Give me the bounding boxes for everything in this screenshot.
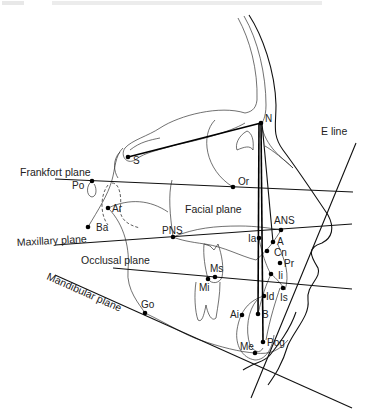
point-ii xyxy=(269,272,274,277)
palate-outline xyxy=(173,226,281,260)
point-mi xyxy=(206,277,211,282)
orbit-outline xyxy=(236,131,253,150)
label-cn: Cn xyxy=(274,247,287,258)
point-ans xyxy=(279,228,284,233)
nasal-bone-outline xyxy=(262,128,293,168)
label-frankfort-plane: Frankfort plane xyxy=(20,166,91,178)
n-b-line xyxy=(258,123,259,314)
e-line xyxy=(251,143,356,398)
point-ia xyxy=(257,236,262,241)
label-pns: PNS xyxy=(162,225,183,236)
label-pr: Pr xyxy=(284,258,295,269)
point-go xyxy=(143,311,148,316)
label-a: A xyxy=(277,236,284,247)
label-or: Or xyxy=(238,176,250,187)
point-is xyxy=(281,286,286,291)
label-is: Is xyxy=(280,292,288,303)
label-mandibular-plane: Mandibular plane xyxy=(45,270,124,314)
label-pog: Pog xyxy=(267,337,285,348)
label-occlusal-plane: Occlusal plane xyxy=(81,254,150,266)
point-b xyxy=(256,312,261,317)
point-pog xyxy=(261,340,266,345)
label-me: Me xyxy=(240,341,254,352)
label-ba: Ba xyxy=(96,222,109,233)
label-maxillary-plane: Maxillary plane xyxy=(16,232,87,248)
label-b: B xyxy=(262,309,269,320)
point-ai xyxy=(240,313,245,318)
cephalometric-diagram: N S Po Or Ar Ba PNS ANS Ia A Cn Pr Ii Is… xyxy=(0,0,372,420)
label-ms: Ms xyxy=(210,263,223,274)
label-e-line: E line xyxy=(321,125,347,137)
point-or xyxy=(231,185,236,190)
point-cn xyxy=(265,249,270,254)
lower-incisor xyxy=(258,274,280,340)
label-go: Go xyxy=(141,299,155,310)
label-ia: Ia xyxy=(248,233,257,244)
label-facial-plane: Facial plane xyxy=(185,203,242,215)
label-id: Id xyxy=(266,291,274,302)
porion-loop xyxy=(88,181,97,197)
label-s: S xyxy=(133,155,140,166)
label-ii: Ii xyxy=(278,270,283,281)
point-a xyxy=(271,240,276,245)
frontal-bone-outline xyxy=(238,18,257,113)
orbit-rim xyxy=(207,120,233,187)
label-n: N xyxy=(265,113,272,124)
label-ar: Ar xyxy=(112,203,123,214)
label-ai: Ai xyxy=(230,309,239,320)
point-po xyxy=(90,179,95,184)
point-s xyxy=(126,155,131,160)
point-ms xyxy=(213,275,218,280)
point-ar xyxy=(106,206,111,211)
label-po: Po xyxy=(72,180,85,191)
point-n xyxy=(259,121,264,126)
sella-nasion-line xyxy=(128,123,261,157)
point-ba xyxy=(86,225,91,230)
point-pr xyxy=(278,261,283,266)
label-mi: Mi xyxy=(199,282,210,293)
label-ans: ANS xyxy=(274,215,295,226)
